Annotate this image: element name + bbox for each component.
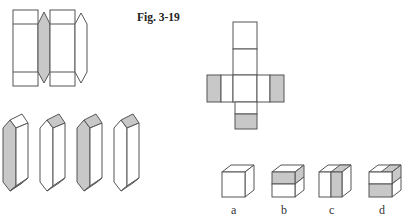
option-label-c: c [329, 203, 334, 218]
prism-3 [77, 114, 102, 191]
cube-option-d [369, 165, 401, 197]
prism-2 [40, 114, 65, 191]
figure-canvas [0, 0, 412, 221]
option-label-a: a [231, 203, 236, 218]
prism-net [13, 10, 87, 86]
cube-option-b [272, 165, 304, 197]
prism-4 [114, 114, 139, 191]
option-label-b: b [281, 203, 287, 218]
cube-net [207, 22, 284, 129]
option-label-d: d [379, 203, 385, 218]
prism-1 [3, 114, 28, 191]
cube-option-c [319, 165, 351, 197]
cube-option-a [222, 165, 254, 197]
